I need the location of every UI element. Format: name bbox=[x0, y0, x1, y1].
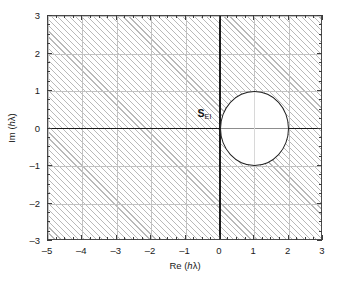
x-tick-minor-top bbox=[296, 15, 297, 18]
y-tick-minor bbox=[47, 174, 50, 175]
y-tick-major bbox=[47, 240, 52, 241]
x-axis-title: Re (hλ) bbox=[169, 260, 200, 271]
x-tick-minor bbox=[176, 237, 177, 240]
y-tick-major-right bbox=[317, 165, 322, 166]
x-tick-minor-top bbox=[90, 15, 91, 18]
x-tick-label: –4 bbox=[76, 245, 87, 256]
x-tick-minor-top bbox=[227, 15, 228, 18]
x-tick-minor-top bbox=[236, 15, 237, 18]
y-tick-minor-right bbox=[319, 71, 322, 72]
x-tick-minor bbox=[305, 237, 306, 240]
y-tick-minor-right bbox=[319, 62, 322, 63]
x-tick-label: 2 bbox=[285, 245, 290, 256]
x-tick-minor bbox=[142, 237, 143, 240]
y-tick-major bbox=[47, 15, 52, 16]
y-tick-label: –3 bbox=[22, 235, 40, 246]
y-tick-minor-right bbox=[319, 146, 322, 147]
x-tick-major bbox=[253, 235, 254, 240]
x-tick-minor bbox=[133, 237, 134, 240]
y-tick-minor bbox=[47, 156, 50, 157]
x-tick-minor-top bbox=[73, 15, 74, 18]
y-tick-minor bbox=[47, 43, 50, 44]
x-tick-minor bbox=[64, 237, 65, 240]
y-tick-minor bbox=[47, 62, 50, 63]
y-tick-minor-right bbox=[319, 193, 322, 194]
x-tick-major-top bbox=[288, 15, 289, 20]
x-tick-minor-top bbox=[210, 15, 211, 18]
x-tick-minor bbox=[227, 237, 228, 240]
x-tick-minor-top bbox=[99, 15, 100, 18]
x-axis-title-suffix: λ) bbox=[193, 260, 201, 271]
x-tick-minor bbox=[262, 237, 263, 240]
y-tick-minor-right bbox=[319, 109, 322, 110]
x-tick-label: –3 bbox=[110, 245, 121, 256]
y-tick-minor-right bbox=[319, 43, 322, 44]
x-tick-minor-top bbox=[270, 15, 271, 18]
y-tick-minor bbox=[47, 221, 50, 222]
y-tick-minor bbox=[47, 109, 50, 110]
y-tick-minor-right bbox=[319, 174, 322, 175]
x-tick-minor-top bbox=[133, 15, 134, 18]
x-tick-major-top bbox=[219, 15, 220, 20]
y-tick-minor-right bbox=[319, 118, 322, 119]
y-tick-label: 3 bbox=[22, 10, 40, 21]
y-tick-major-right bbox=[317, 240, 322, 241]
gridline-horizontal bbox=[48, 166, 321, 167]
y-tick-minor-right bbox=[319, 99, 322, 100]
x-tick-minor-top bbox=[313, 15, 314, 18]
x-tick-minor bbox=[193, 237, 194, 240]
y-tick-major bbox=[47, 128, 52, 129]
y-axis-title-suffix: λ) bbox=[6, 113, 17, 121]
x-tick-major bbox=[322, 235, 323, 240]
x-tick-minor bbox=[270, 237, 271, 240]
y-axis-title: Im (hλ) bbox=[6, 113, 17, 143]
x-tick-minor bbox=[236, 237, 237, 240]
x-tick-minor bbox=[159, 237, 160, 240]
y-tick-minor-right bbox=[319, 184, 322, 185]
y-tick-minor bbox=[47, 118, 50, 119]
y-tick-minor bbox=[47, 212, 50, 213]
x-tick-minor bbox=[245, 237, 246, 240]
x-tick-major bbox=[219, 235, 220, 240]
x-tick-minor bbox=[167, 237, 168, 240]
x-tick-minor bbox=[90, 237, 91, 240]
x-tick-minor-top bbox=[305, 15, 306, 18]
imaginary-axis-inside-circle bbox=[254, 92, 255, 165]
x-tick-major-top bbox=[253, 15, 254, 20]
y-tick-minor bbox=[47, 193, 50, 194]
x-tick-minor-top bbox=[279, 15, 280, 18]
y-axis-title-variable: h bbox=[6, 121, 17, 126]
x-tick-major bbox=[288, 235, 289, 240]
stability-region-figure: SEI –5–4–3–2–101233210–1–2–3 Re (hλ) Im … bbox=[0, 0, 346, 281]
x-tick-label: 0 bbox=[216, 245, 221, 256]
y-tick-label: 0 bbox=[22, 122, 40, 133]
y-tick-label: –1 bbox=[22, 160, 40, 171]
x-tick-label: –5 bbox=[42, 245, 53, 256]
y-tick-minor bbox=[47, 184, 50, 185]
x-tick-major-top bbox=[322, 15, 323, 20]
x-tick-minor-top bbox=[56, 15, 57, 18]
y-tick-minor bbox=[47, 99, 50, 100]
gridline-horizontal bbox=[48, 204, 321, 205]
x-tick-minor bbox=[99, 237, 100, 240]
y-tick-minor bbox=[47, 24, 50, 25]
y-axis-title-prefix: Im ( bbox=[6, 126, 17, 142]
x-tick-minor bbox=[73, 237, 74, 240]
y-tick-minor-right bbox=[319, 137, 322, 138]
x-tick-label: –2 bbox=[145, 245, 156, 256]
y-tick-minor-right bbox=[319, 231, 322, 232]
x-tick-minor-top bbox=[202, 15, 203, 18]
x-axis-title-prefix: Re ( bbox=[169, 260, 187, 271]
x-tick-minor bbox=[124, 237, 125, 240]
region-label-subscript: EI bbox=[205, 112, 212, 119]
gridline-horizontal bbox=[48, 91, 321, 92]
y-tick-minor bbox=[47, 231, 50, 232]
x-tick-minor-top bbox=[245, 15, 246, 18]
x-tick-minor-top bbox=[193, 15, 194, 18]
y-tick-major-right bbox=[317, 203, 322, 204]
x-tick-minor-top bbox=[167, 15, 168, 18]
x-tick-major-top bbox=[81, 15, 82, 20]
x-tick-major-top bbox=[150, 15, 151, 20]
x-tick-major-top bbox=[185, 15, 186, 20]
y-tick-major-right bbox=[317, 15, 322, 16]
